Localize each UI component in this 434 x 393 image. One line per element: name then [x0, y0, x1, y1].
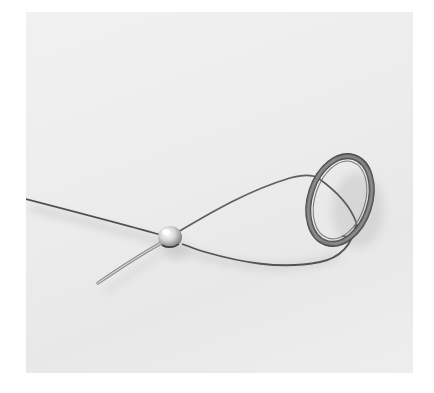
photo-wire-bead-ring: Close-up photograph of a thin metal wire… — [26, 12, 413, 373]
bead — [158, 226, 182, 248]
photo-illustration — [26, 12, 413, 373]
shadows — [30, 172, 384, 292]
